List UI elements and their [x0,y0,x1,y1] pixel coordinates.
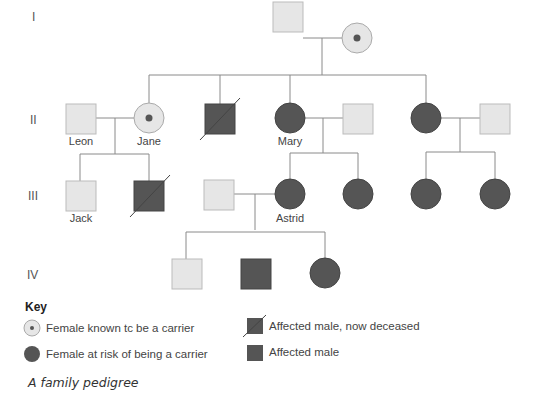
key-title: Key [25,300,47,314]
astrid-at-risk [275,179,305,209]
affected-male [241,259,271,289]
female-at-risk [411,103,441,133]
key-label-at-risk: Female at risk of being a carrier [46,348,208,360]
male-unaffected [172,259,202,289]
female-at-risk [343,179,373,209]
key-at-risk-icon [24,346,40,362]
female-at-risk [411,179,441,209]
gen1-male [273,2,303,32]
gen-label-1: I [32,10,35,24]
name-jane: Jane [137,135,161,147]
key-carrier-dot-icon [30,326,34,330]
male-unaffected [480,104,510,134]
gen-label-4: IV [27,268,38,282]
leon [66,104,96,134]
female-at-risk [310,258,340,288]
name-mary: Mary [278,135,302,147]
figure-caption: A family pedigree [28,375,139,390]
astrid-husband [204,180,234,210]
key-label-carrier: Female known tc be a carrier [46,322,194,334]
gen-label-3: III [28,189,38,203]
carrier-dot-icon [354,35,361,42]
carrier-dot-icon [146,115,153,122]
key-label-affected: Affected male [269,346,339,358]
female-at-risk [480,179,510,209]
mary-husband [343,104,373,134]
key-affected-icon [247,345,263,361]
name-leon: Leon [69,135,93,147]
name-jack: Jack [70,212,93,224]
pedigree-diagram [0,0,534,406]
key-label-deceased: Affected male, now deceased [269,320,420,332]
jack [66,181,96,211]
mary-at-risk [275,103,305,133]
gen-label-2: II [30,113,37,127]
name-astrid: Astrid [276,212,304,224]
